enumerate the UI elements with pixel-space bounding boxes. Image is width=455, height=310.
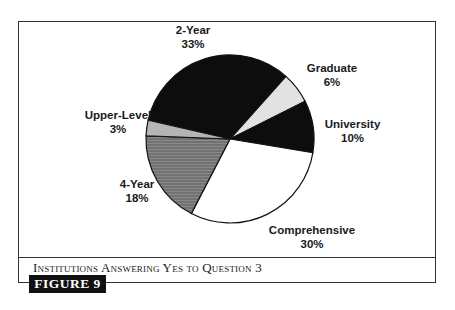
label-name: Upper-Level bbox=[78, 108, 158, 122]
label-pct: 3% bbox=[78, 122, 158, 136]
label-pct: 33% bbox=[158, 37, 228, 51]
figure-number-tab: FIGURE 9 bbox=[29, 275, 106, 293]
label-pct: 30% bbox=[262, 237, 362, 251]
label-pct: 6% bbox=[297, 75, 367, 89]
label-pct: 10% bbox=[315, 131, 390, 145]
caption-divider bbox=[18, 257, 436, 258]
label-name: 2-Year bbox=[158, 23, 228, 37]
label-upper-level: Upper-Level 3% bbox=[78, 108, 158, 136]
label-pct: 18% bbox=[107, 191, 167, 205]
label-name: 4-Year bbox=[107, 177, 167, 191]
label-name: University bbox=[315, 117, 390, 131]
label-comprehensive: Comprehensive 30% bbox=[262, 223, 362, 251]
label-graduate: Graduate 6% bbox=[297, 61, 367, 89]
label-2-year: 2-Year 33% bbox=[158, 23, 228, 51]
label-university: University 10% bbox=[315, 117, 390, 145]
figure-caption: Institutions Answering Yes to Question 3 bbox=[33, 260, 262, 276]
label-4-year: 4-Year 18% bbox=[107, 177, 167, 205]
label-name: Graduate bbox=[297, 61, 367, 75]
label-name: Comprehensive bbox=[262, 223, 362, 237]
